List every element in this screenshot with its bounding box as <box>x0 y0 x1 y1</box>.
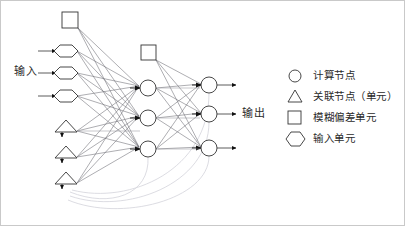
node-association-unit-2[interactable] <box>55 146 77 158</box>
link-a2-h1 <box>77 86 139 157</box>
link-bias-h2 <box>78 28 139 116</box>
node-association-unit-3[interactable] <box>55 172 77 184</box>
link-a3-h3 <box>77 147 139 183</box>
legend-circle-icon <box>289 70 301 82</box>
legend-triangle-icon <box>288 90 302 102</box>
link-a2-h3 <box>77 147 139 157</box>
link-h1-o2 <box>156 88 201 113</box>
input-label: 输入 <box>14 66 37 77</box>
link-a3-h1 <box>77 86 139 183</box>
legend-label-association-node: 关联节点（单元） <box>313 91 397 102</box>
node-input-unit-3[interactable] <box>54 90 78 102</box>
node-output-unit-1[interactable] <box>201 77 217 93</box>
link-hbias-o2 <box>156 60 201 113</box>
legend-square-icon <box>288 111 301 124</box>
legend-label-input-unit: 输入单元 <box>313 133 355 144</box>
link-hbias-o1 <box>156 60 201 84</box>
output-label: 输出 <box>242 108 265 119</box>
link-a1-h1 <box>77 86 139 131</box>
link-h3-o2 <box>156 113 201 149</box>
node-input-unit-2[interactable] <box>54 67 78 79</box>
node-input-unit-1[interactable] <box>54 45 78 57</box>
link-a2-h2 <box>77 116 139 157</box>
legend-label-computation-node: 计算节点 <box>313 70 355 81</box>
diagram-canvas: 输入 输出 计算节点 关联节点（单元） 模糊偏差单元 输入单元 <box>0 0 406 227</box>
link-h2-o3 <box>156 118 201 147</box>
node-output-unit-3[interactable] <box>201 140 217 156</box>
node-output-unit-2[interactable] <box>201 106 217 122</box>
node-hidden-unit-3[interactable] <box>140 141 156 157</box>
node-association-unit-1[interactable] <box>55 120 77 132</box>
node-hidden-bias-square[interactable] <box>141 45 156 60</box>
link-hbias-o3 <box>156 60 201 147</box>
link-h2-o1 <box>156 84 201 118</box>
link-h3-o1 <box>156 84 201 149</box>
legend-label-fuzzy-bias-unit: 模糊偏差单元 <box>313 112 376 123</box>
node-hidden-unit-2[interactable] <box>140 110 156 126</box>
link-a3-h2 <box>77 116 139 183</box>
node-input-bias-square[interactable] <box>62 12 78 28</box>
node-hidden-unit-1[interactable] <box>140 80 156 96</box>
legend-hexagon-icon <box>286 132 305 146</box>
